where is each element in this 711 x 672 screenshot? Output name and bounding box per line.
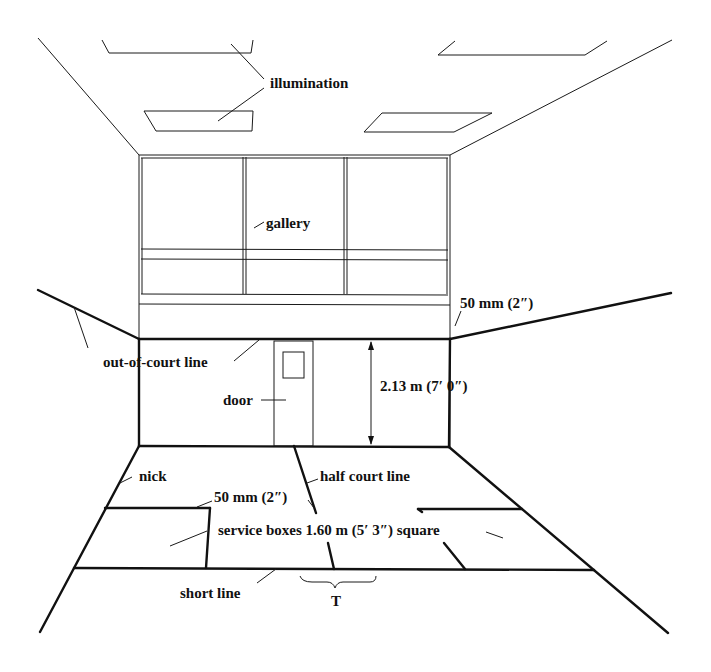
illumination-callout: illumination [218,44,349,121]
half-court-line-callout: half court line [307,468,410,484]
line-width-callout: 50 mm (2″) [197,489,314,508]
ceiling-light-fixtures [102,40,607,132]
t-label: T [331,593,341,609]
out-of-court-line: out-of-court line 50 mm (2″) [38,290,671,370]
line-width-label: 50 mm (2″) [214,489,287,506]
light-top-right [438,41,607,55]
height-dimension: 2.13 m (7′ 0″) [368,341,468,445]
gallery: gallery [139,155,450,447]
short-line-label: short line [180,585,241,601]
illumination-label: illumination [270,75,349,91]
door: door [223,341,313,446]
service-boxes-callout: service boxes 1.60 m (5′ 3″) square [170,522,503,546]
door-label: door [223,392,253,408]
t-callout: T [300,576,376,609]
gallery-label: gallery [266,215,311,231]
height-dimension-label: 2.13 m (7′ 0″) [380,378,468,395]
light-front-right [364,113,492,132]
tin-height-label: 50 mm (2″) [460,295,533,312]
out-of-court-line-label: out-of-court line [103,354,208,370]
squash-court-diagram: illumination gallery out-of-court line 5… [0,0,711,672]
light-top-left [102,40,253,53]
short-line-callout: short line [180,569,276,601]
nick-label: nick [139,468,167,484]
service-boxes-label: service boxes 1.60 m (5′ 3″) square [218,522,440,539]
ceiling-edges [38,38,672,155]
light-front-left [144,111,253,131]
half-court-line-label: half court line [320,468,410,484]
